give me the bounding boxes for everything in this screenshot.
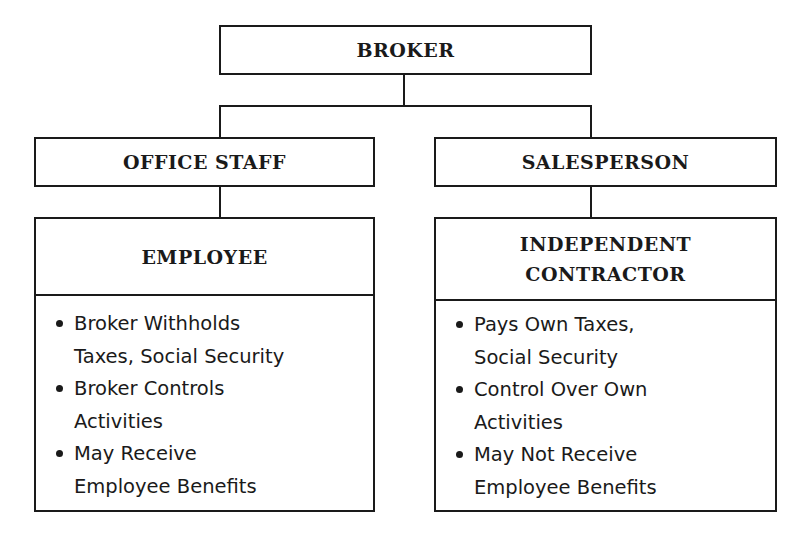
employee-characteristics: Broker Withholds Taxes, Social Security …	[36, 294, 373, 510]
independent-contractor-header: INDEPENDENT CONTRACTOR	[436, 219, 775, 301]
employee-header: EMPLOYEE	[36, 219, 373, 296]
independent-contractor-characteristics: Pays Own Taxes, Social Security Control …	[436, 299, 775, 510]
bullet-icon	[456, 451, 463, 458]
independent-contractor-node: INDEPENDENT CONTRACTOR Pays Own Taxes, S…	[434, 217, 777, 512]
connector-left-drop	[219, 105, 221, 138]
broker-label: BROKER	[356, 39, 454, 61]
bullet-icon	[456, 321, 463, 328]
bullet-icon	[56, 385, 63, 392]
contractor-label: CONTRACTOR	[525, 259, 685, 289]
list-item: May Not Receive Employee Benefits	[456, 439, 775, 504]
list-item: Control Over Own Activities	[456, 374, 775, 439]
list-item: Broker Controls Activities	[56, 373, 373, 438]
employee-node: EMPLOYEE Broker Withholds Taxes, Social …	[34, 217, 375, 512]
bullet-icon	[56, 450, 63, 457]
bullet-icon	[56, 320, 63, 327]
office-staff-label: OFFICE STAFF	[123, 151, 286, 173]
connector-office-staff-down	[219, 186, 221, 218]
office-staff-node: OFFICE STAFF	[34, 137, 375, 187]
bullet-icon	[456, 386, 463, 393]
list-item: Pays Own Taxes, Social Security	[456, 309, 775, 374]
connector-horizontal	[219, 105, 592, 107]
connector-right-drop	[590, 105, 592, 138]
salesperson-node: SALESPERSON	[434, 137, 777, 187]
list-item: Broker Withholds Taxes, Social Security	[56, 308, 373, 373]
list-item: May Receive Employee Benefits	[56, 438, 373, 503]
connector-root-down	[403, 74, 405, 107]
connector-salesperson-down	[590, 186, 592, 218]
salesperson-label: SALESPERSON	[522, 151, 690, 173]
independent-label: INDEPENDENT	[520, 229, 691, 259]
employee-label: EMPLOYEE	[141, 246, 267, 268]
broker-node: BROKER	[219, 25, 592, 75]
